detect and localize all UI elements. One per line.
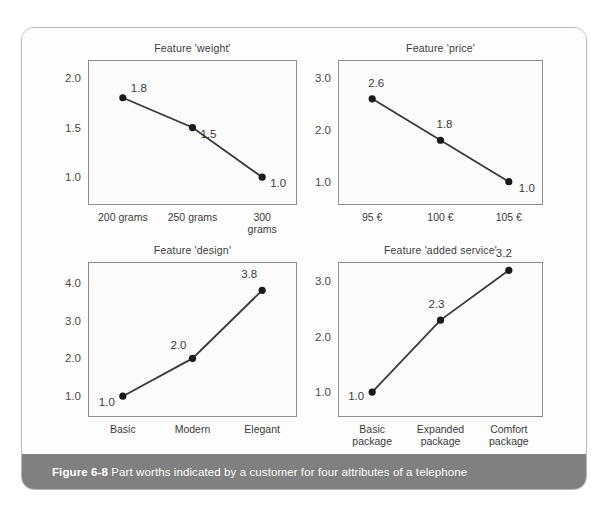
y-tick-label-added-service: 3.0 bbox=[315, 275, 331, 287]
x-tick-label-added-service: Basic package bbox=[352, 423, 392, 447]
data-point-label-design: 2.0 bbox=[171, 339, 187, 351]
figure-caption-text: Figure 6-8 Part worths indicated by a cu… bbox=[22, 466, 467, 478]
data-point-label-added-service: 3.2 bbox=[496, 247, 512, 259]
chart-title-added-service: Feature 'added service' bbox=[338, 244, 543, 256]
y-tick-label-price: 3.0 bbox=[315, 72, 331, 84]
series-line-weight bbox=[88, 60, 297, 205]
chart-title-weight: Feature 'weight' bbox=[88, 42, 297, 54]
data-point-marker bbox=[505, 267, 512, 274]
data-point-label-added-service: 2.3 bbox=[429, 298, 445, 310]
data-point-label-weight: 1.0 bbox=[270, 177, 286, 189]
x-tick-label-design: Elegant bbox=[244, 423, 280, 435]
data-point-label-added-service: 1.0 bbox=[348, 390, 364, 402]
x-tick-label-price: 95 € bbox=[362, 211, 382, 223]
data-point-marker bbox=[437, 317, 444, 324]
chart-title-price: Feature 'price' bbox=[338, 42, 543, 54]
x-tick-label-design: Modern bbox=[175, 423, 211, 435]
data-point-label-weight: 1.5 bbox=[201, 128, 217, 140]
y-tick-label-weight: 1.0 bbox=[65, 171, 81, 183]
plot-area-design: 1.02.03.04.0BasicModernElegant1.02.03.8 bbox=[88, 262, 297, 417]
x-tick-label-added-service: Comfort package bbox=[489, 423, 529, 447]
x-tick-label-added-service: Expanded package bbox=[417, 423, 464, 447]
figure-card: Feature 'weight' 1.01.52.0200 grams250 g… bbox=[21, 27, 587, 490]
data-point-label-design: 3.8 bbox=[241, 268, 257, 280]
y-tick-label-price: 2.0 bbox=[315, 124, 331, 136]
data-point-marker bbox=[259, 174, 266, 181]
panels-area: Feature 'weight' 1.01.52.0200 grams250 g… bbox=[22, 28, 586, 456]
series-line-added-service bbox=[338, 262, 543, 417]
y-tick-label-added-service: 1.0 bbox=[315, 386, 331, 398]
chart-panel-added-service: Feature 'added service' 1.02.03.0Basic p… bbox=[338, 244, 543, 399]
figure-caption-body: Part worths indicated by a customer for … bbox=[111, 466, 467, 478]
figure-caption-bar: Figure 6-8 Part worths indicated by a cu… bbox=[22, 454, 586, 489]
data-point-label-weight: 1.8 bbox=[131, 82, 147, 94]
x-tick-label-weight: 300 grams bbox=[245, 211, 280, 235]
x-tick-label-weight: 200 grams bbox=[98, 211, 148, 223]
data-point-marker bbox=[259, 287, 266, 294]
data-point-label-price: 2.6 bbox=[368, 77, 384, 89]
y-tick-label-design: 1.0 bbox=[65, 390, 81, 402]
data-point-marker bbox=[119, 94, 126, 101]
data-point-marker bbox=[369, 388, 376, 395]
chart-panel-price: Feature 'price' 1.02.03.095 €100 €105 €2… bbox=[338, 42, 543, 187]
x-tick-label-price: 100 € bbox=[427, 211, 453, 223]
data-point-label-price: 1.8 bbox=[437, 118, 453, 130]
y-tick-label-design: 4.0 bbox=[65, 277, 81, 289]
chart-panel-design: Feature 'design' 1.02.03.04.0BasicModern… bbox=[88, 244, 297, 399]
plot-area-weight: 1.01.52.0200 grams250 grams300 grams1.81… bbox=[88, 60, 297, 205]
x-tick-label-weight: 250 grams bbox=[168, 211, 218, 223]
data-point-label-design: 1.0 bbox=[99, 396, 115, 408]
y-tick-label-added-service: 2.0 bbox=[315, 331, 331, 343]
data-point-marker bbox=[505, 178, 512, 185]
x-tick-label-price: 105 € bbox=[496, 211, 522, 223]
chart-panel-weight: Feature 'weight' 1.01.52.0200 grams250 g… bbox=[88, 42, 297, 187]
x-tick-label-design: Basic bbox=[110, 423, 136, 435]
plot-area-added-service: 1.02.03.0Basic packageExpanded packageCo… bbox=[338, 262, 543, 417]
y-tick-label-weight: 2.0 bbox=[65, 72, 81, 84]
chart-title-design: Feature 'design' bbox=[88, 244, 297, 256]
data-point-marker bbox=[119, 393, 126, 400]
data-point-marker bbox=[189, 124, 196, 131]
y-tick-label-design: 3.0 bbox=[65, 315, 81, 327]
data-point-label-price: 1.0 bbox=[519, 182, 535, 194]
data-point-marker bbox=[369, 95, 376, 102]
data-point-marker bbox=[437, 137, 444, 144]
figure-caption-label: Figure 6-8 bbox=[52, 466, 108, 478]
y-tick-label-weight: 1.5 bbox=[65, 122, 81, 134]
y-tick-label-price: 1.0 bbox=[315, 176, 331, 188]
y-tick-label-design: 2.0 bbox=[65, 352, 81, 364]
data-point-marker bbox=[189, 355, 196, 362]
series-line-design bbox=[88, 262, 297, 417]
plot-area-price: 1.02.03.095 €100 €105 €2.61.81.0 bbox=[338, 60, 543, 205]
